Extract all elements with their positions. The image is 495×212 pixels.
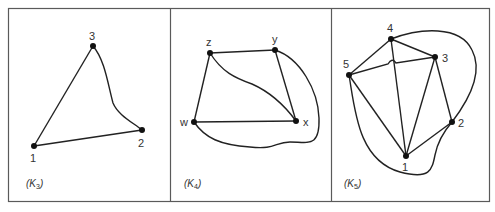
node-2 (139, 127, 145, 133)
node-x (293, 118, 299, 124)
node-label: 4 (387, 22, 393, 34)
panel-k3: 1 2 3 (K3) (26, 30, 145, 190)
edge-4-3 (391, 39, 435, 57)
node-w (191, 119, 197, 125)
node-label: 3 (442, 52, 448, 64)
node-2 (449, 119, 455, 125)
panel-caption: (K3) (26, 178, 43, 190)
panel-caption: (K5) (344, 178, 361, 190)
edge-1-3 (34, 46, 93, 146)
edge-y-w (194, 50, 319, 148)
edge-w-x (194, 121, 296, 122)
edge-3-2 (93, 46, 142, 130)
node-label: x (303, 116, 309, 128)
node-label: 3 (89, 30, 95, 42)
edge-5-3 (349, 57, 435, 75)
node-5 (346, 72, 352, 78)
edge-z-w (194, 53, 210, 122)
node-4 (388, 36, 394, 42)
node-3 (432, 54, 438, 60)
edge-3-1 (406, 57, 435, 156)
node-label: 5 (343, 58, 349, 70)
figure-frame (9, 9, 490, 202)
panel-k4: z y w x (K4) (179, 33, 319, 190)
node-label: z (206, 36, 212, 48)
node-label: 1 (402, 161, 408, 173)
edge-1-2 (406, 122, 452, 156)
node-label: 2 (138, 137, 144, 149)
edge-1-2 (34, 130, 142, 146)
node-label: 2 (458, 117, 464, 129)
node-y (272, 47, 278, 53)
node-1 (403, 153, 409, 159)
edge-z-x (210, 53, 296, 121)
edge-z-y (210, 50, 275, 53)
edge-3-2 (435, 57, 452, 122)
edge-5-2 (349, 75, 452, 175)
k-graphs-figure: 1 2 3 (K3) z y w x (K4) (0, 0, 495, 212)
node-z (207, 50, 213, 56)
node-label: y (272, 33, 278, 45)
node-label: 1 (30, 152, 36, 164)
panel-k5: 1 2 3 4 5 (K5) (343, 22, 476, 190)
panel-caption: (K4) (184, 178, 201, 190)
node-label: w (179, 116, 188, 128)
node-3 (90, 43, 96, 49)
node-1 (31, 143, 37, 149)
